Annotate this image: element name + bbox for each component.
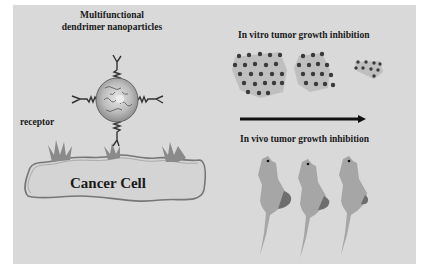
cell-cluster-large	[232, 52, 287, 98]
mouse-icon	[298, 159, 329, 258]
cell-cluster-medium	[294, 52, 335, 92]
nanoparticle-title-line1: Multifunctional	[57, 9, 167, 21]
in-vitro-label: In vitro tumor growth inhibition	[238, 30, 369, 40]
mouse-icon	[339, 156, 368, 255]
nanoparticle-title-line2: dendrimer nanoparticles	[57, 21, 167, 33]
progression-arrow-icon	[240, 115, 366, 123]
cancer-cell-label: Cancer Cell	[70, 175, 146, 192]
receptor-icon	[162, 142, 186, 162]
dendrimer-nanoparticle-icon	[96, 78, 138, 122]
in-vivo-label: In vivo tumor growth inhibition	[240, 134, 369, 144]
nanoparticle-title: Multifunctional dendrimer nanoparticles	[57, 9, 167, 33]
cell-cluster-small	[354, 60, 383, 79]
receptor-label: receptor	[20, 117, 54, 127]
mouse-icon	[258, 156, 291, 255]
receptor-icon	[48, 140, 72, 162]
